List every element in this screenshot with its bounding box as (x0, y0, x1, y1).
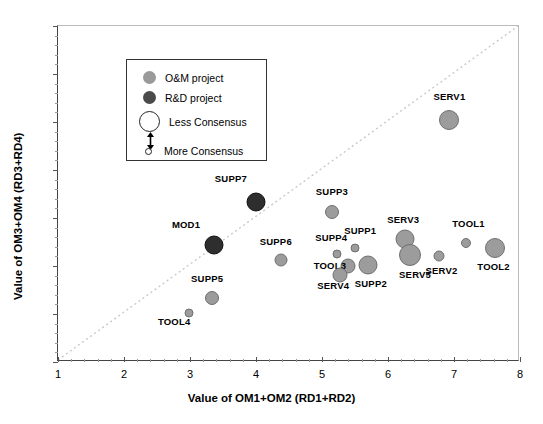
x-minor-tick (84, 359, 85, 362)
data-point-label-tool2: TOOL2 (477, 260, 510, 271)
x-tick-label: 6 (376, 368, 400, 380)
x-minor-tick (203, 359, 204, 362)
large-open-circle-icon (139, 111, 160, 132)
data-point-label-supp5: SUPP5 (191, 272, 223, 283)
data-point-supp5[interactable] (205, 291, 219, 305)
y-minor-tick (55, 103, 58, 104)
y-tick (53, 74, 58, 75)
x-tick (388, 357, 389, 362)
y-minor-tick (55, 333, 58, 334)
x-minor-tick (428, 359, 429, 362)
x-minor-tick (414, 359, 415, 362)
data-point-supp4[interactable] (333, 250, 342, 259)
x-minor-tick (309, 359, 310, 362)
x-minor-tick (137, 359, 138, 362)
y-minor-tick (55, 64, 58, 65)
x-tick-label: 5 (310, 368, 334, 380)
y-tick (53, 170, 58, 171)
small-open-circle-icon (145, 148, 152, 155)
legend-label-less-consensus: Less Consensus (169, 116, 247, 128)
data-point-label-supp4: SUPP4 (315, 232, 347, 243)
y-minor-tick (55, 189, 58, 190)
legend-item-less-consensus: Less Consensus (139, 111, 247, 132)
x-tick-label: 2 (112, 368, 136, 380)
y-tick (53, 218, 58, 219)
x-minor-tick (71, 359, 72, 362)
x-minor-tick (335, 359, 336, 362)
legend-label-om: O&M project (165, 72, 223, 84)
y-minor-tick (55, 141, 58, 142)
x-minor-tick (111, 359, 112, 362)
y-minor-tick (55, 208, 58, 209)
y-minor-tick (55, 228, 58, 229)
x-minor-tick (230, 359, 231, 362)
y-minor-tick (55, 324, 58, 325)
y-minor-tick (55, 256, 58, 257)
data-point-serv5[interactable] (399, 244, 421, 266)
data-point-supp3[interactable] (325, 205, 339, 219)
x-tick (124, 357, 125, 362)
data-point-label-tool1: TOOL1 (452, 217, 485, 228)
om-marker-icon (143, 71, 156, 84)
data-point-tool1[interactable] (461, 238, 471, 248)
data-point-mod1[interactable] (205, 236, 224, 255)
data-point-tool2[interactable] (485, 238, 505, 258)
data-point-serv2[interactable] (434, 251, 445, 262)
data-point-serv1[interactable] (439, 110, 459, 130)
y-minor-tick (55, 55, 58, 56)
y-minor-tick (55, 285, 58, 286)
y-axis-title: Value of OM3+OM4 (RD3+RD4) (12, 133, 24, 300)
data-point-label-tool4: TOOL4 (158, 315, 191, 326)
y-minor-tick (55, 237, 58, 238)
legend-label-rd: R&D project (165, 92, 222, 104)
x-tick-label: 3 (178, 368, 202, 380)
y-minor-tick (55, 151, 58, 152)
x-minor-tick (177, 359, 178, 362)
data-point-label-serv4: SERV4 (317, 280, 349, 291)
x-minor-tick (282, 359, 283, 362)
x-tick-label: 1 (46, 368, 70, 380)
x-minor-tick (164, 359, 165, 362)
legend-item-rd: R&D project (143, 91, 222, 104)
x-minor-tick (441, 359, 442, 362)
data-point-label-serv1: SERV1 (433, 90, 465, 101)
y-tick (53, 122, 58, 123)
x-minor-tick (362, 359, 363, 362)
y-minor-tick (55, 132, 58, 133)
x-minor-tick (98, 359, 99, 362)
y-minor-tick (55, 160, 58, 161)
data-point-label-supp3: SUPP3 (316, 186, 348, 197)
x-tick (58, 357, 59, 362)
y-minor-tick (55, 343, 58, 344)
y-minor-tick (55, 180, 58, 181)
y-minor-tick (55, 112, 58, 113)
x-tick-label: 7 (442, 368, 466, 380)
y-tick (53, 362, 58, 363)
x-minor-tick (494, 359, 495, 362)
x-tick-label: 4 (244, 368, 268, 380)
y-minor-tick (55, 276, 58, 277)
y-minor-tick (55, 304, 58, 305)
data-point-supp6[interactable] (275, 254, 288, 267)
data-point-supp1[interactable] (351, 243, 360, 252)
x-tick (520, 357, 521, 362)
x-tick (322, 357, 323, 362)
y-minor-tick (55, 45, 58, 46)
legend-item-more-consensus: More Consensus (145, 145, 243, 157)
x-minor-tick (150, 359, 151, 362)
plot-area: 1234567812345678 SERV1SUPP7SUPP3MOD1SERV… (57, 25, 519, 361)
x-minor-tick (507, 359, 508, 362)
scatter-plot-figure: Value of OM3+OM4 (RD3+RD4) Value of OM1+… (0, 0, 543, 424)
y-minor-tick (55, 93, 58, 94)
y-minor-tick (55, 36, 58, 37)
x-tick (256, 357, 257, 362)
y-minor-tick (55, 352, 58, 353)
data-point-supp7[interactable] (247, 193, 266, 212)
data-point-supp2[interactable] (359, 256, 378, 275)
x-tick (454, 357, 455, 362)
x-tick (190, 357, 191, 362)
data-point-label-serv3: SERV3 (387, 213, 419, 224)
y-minor-tick (55, 295, 58, 296)
x-axis-title: Value of OM1+OM2 (RD1+RD2) (0, 392, 543, 404)
data-point-label-supp2: SUPP2 (355, 278, 387, 289)
